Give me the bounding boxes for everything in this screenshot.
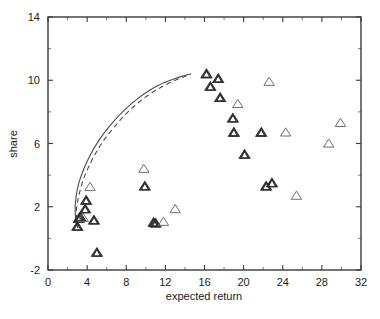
x-tick-label: 32	[355, 276, 367, 288]
axis-ticks	[48, 17, 361, 270]
scatter-plot: 048121620242832 -2261014 expected return…	[0, 0, 380, 319]
data-point-marker	[264, 77, 274, 85]
x-tick-label: 20	[238, 276, 250, 288]
x-tick-label: 8	[123, 276, 129, 288]
y-tick-label: 2	[34, 201, 40, 213]
curve-frontier-dashed	[76, 74, 191, 228]
chart-figure: 048121620242832 -2261014 expected return…	[0, 0, 380, 319]
x-tick-label: 16	[198, 276, 210, 288]
data-point-marker	[85, 182, 95, 190]
y-tick-label: 14	[28, 11, 40, 23]
data-point-marker	[291, 191, 301, 199]
frontier-curves	[75, 74, 191, 228]
curve-frontier-solid	[75, 74, 191, 228]
data-point-marker	[335, 118, 345, 126]
data-point-markers	[72, 69, 346, 256]
x-axis-tick-labels: 048121620242832	[45, 276, 367, 288]
x-axis-title: expected return	[166, 290, 242, 302]
y-tick-label: -2	[30, 264, 40, 276]
y-tick-label: 10	[28, 74, 40, 86]
y-axis-tick-labels: -2261014	[28, 11, 40, 276]
data-point-marker	[139, 164, 149, 172]
data-point-marker	[324, 139, 334, 147]
x-tick-label: 12	[159, 276, 171, 288]
data-point-marker	[158, 217, 168, 225]
y-tick-label: 6	[34, 138, 40, 150]
x-tick-label: 4	[84, 276, 90, 288]
x-tick-label: 28	[316, 276, 328, 288]
data-point-marker	[233, 99, 243, 107]
x-tick-label: 0	[45, 276, 51, 288]
data-point-marker	[170, 205, 180, 213]
x-tick-label: 24	[277, 276, 289, 288]
y-axis-title: share	[7, 130, 19, 158]
plot-frame	[48, 17, 361, 270]
data-point-marker	[280, 128, 290, 136]
